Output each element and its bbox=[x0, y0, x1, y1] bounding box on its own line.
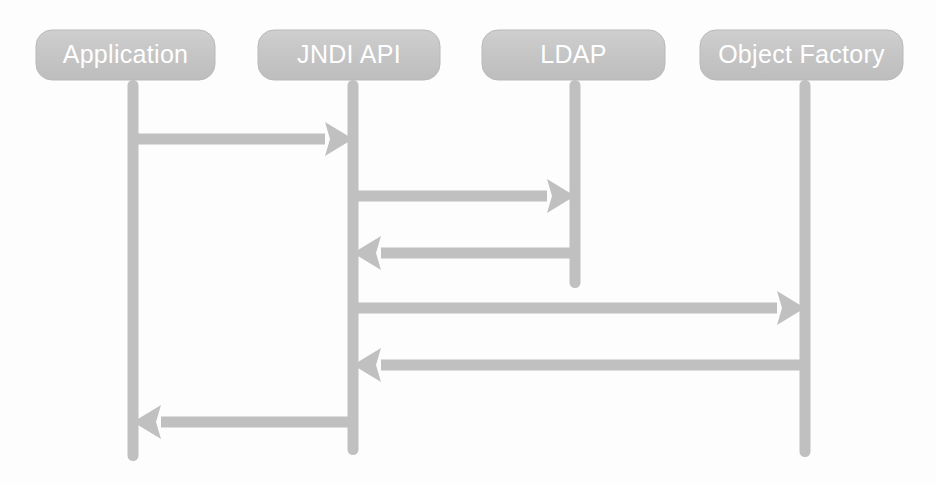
message-ldap-to-jndi-response bbox=[353, 236, 575, 270]
participants-layer: ApplicationJNDI APILDAPObject Factory bbox=[36, 30, 903, 80]
message-shaft bbox=[381, 248, 575, 259]
message-jndi-to-application-response bbox=[133, 405, 353, 439]
lifeline-jndi-api bbox=[348, 80, 359, 455]
lifeline-object-factory bbox=[800, 80, 811, 457]
sequence-diagram-canvas: ApplicationJNDI APILDAPObject Factory bbox=[0, 0, 936, 484]
message-jndi-to-ldap-request bbox=[353, 179, 575, 213]
message-shaft bbox=[353, 191, 547, 202]
message-application-to-jndi-request bbox=[133, 122, 353, 156]
participant-label: Application bbox=[63, 40, 189, 68]
participant-jndi-api[interactable]: JNDI API bbox=[258, 30, 440, 80]
participant-label: LDAP bbox=[540, 40, 607, 68]
participant-application[interactable]: Application bbox=[36, 30, 215, 80]
message-shaft bbox=[353, 303, 777, 314]
participant-label: JNDI API bbox=[297, 40, 401, 68]
messages-layer bbox=[133, 122, 805, 439]
message-shaft bbox=[381, 360, 805, 371]
participant-ldap[interactable]: LDAP bbox=[482, 30, 665, 80]
participant-label: Object Factory bbox=[718, 40, 885, 68]
message-shaft bbox=[133, 134, 325, 145]
message-object-factory-to-jndi-response bbox=[353, 348, 805, 382]
message-shaft bbox=[161, 417, 353, 428]
participant-object-factory[interactable]: Object Factory bbox=[700, 30, 903, 80]
message-jndi-to-object-factory-request bbox=[353, 291, 805, 325]
sequence-diagram-svg: ApplicationJNDI APILDAPObject Factory bbox=[0, 0, 936, 484]
